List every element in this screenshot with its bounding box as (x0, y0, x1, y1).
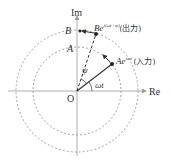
input-label: Aeiωt(入力) (115, 56, 155, 66)
origin-label: O (67, 93, 74, 104)
input-rotation-arrow (103, 55, 110, 62)
inner-radius-label: A (66, 43, 74, 54)
omega-t-label: ωt (95, 80, 104, 90)
output-label: Bei(ωt+ψ)(出力) (94, 23, 141, 33)
imag-axis-label: Im (71, 7, 82, 18)
output-exponent: i(ωt+ψ) (104, 23, 120, 28)
omega-t-arc (89, 82, 92, 91)
outer-radius-label: B (65, 25, 71, 36)
output-rotation-arrow (82, 31, 94, 33)
input-exponent: iωt (126, 56, 133, 61)
psi-label: ψ (82, 65, 88, 75)
output-vector (77, 34, 96, 91)
phasor-diagram: Im Re O B A ψ ωt Bei(ωt+ψ)(出力) Aeiωt(入力) (0, 0, 171, 166)
real-axis-label: Re (149, 86, 161, 97)
b-axis-point (79, 30, 82, 33)
output-base: Be (94, 23, 104, 33)
input-base: Ae (115, 56, 126, 66)
output-note: (出力) (120, 23, 142, 33)
input-point (110, 62, 114, 66)
input-note: (入力) (134, 56, 156, 66)
psi-arc (81, 79, 87, 84)
